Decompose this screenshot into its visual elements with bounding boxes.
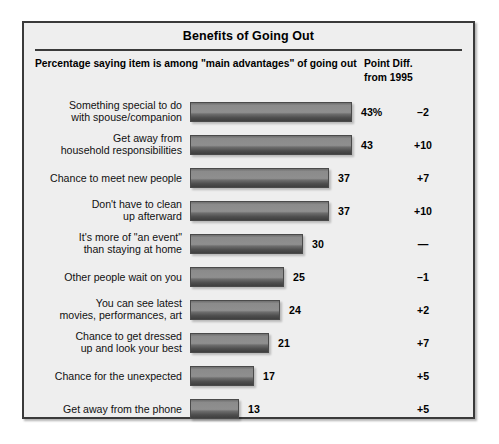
- bar-track: [190, 300, 280, 320]
- bar-value-label: 37: [338, 205, 350, 217]
- bar-row-label: It's more of "an event" than staying at …: [40, 231, 182, 256]
- bar-track: [190, 201, 329, 221]
- bar-track: [190, 267, 284, 287]
- bar: [190, 333, 269, 353]
- bar-value-label: 21: [278, 337, 290, 349]
- point-diff-value: +7: [384, 172, 462, 184]
- point-diff-value: –1: [384, 271, 462, 283]
- bar-row-label: Chance to meet new people: [40, 171, 182, 184]
- bar-row: Something special to do with spouse/comp…: [24, 95, 473, 128]
- bar: [190, 201, 329, 221]
- point-diff-value: –2: [384, 106, 462, 118]
- bar-row: Chance to get dressed up and look your b…: [24, 326, 473, 359]
- chart-title-bar: Benefits of Going Out: [24, 23, 473, 48]
- bar-row-label: Get away from household responsibilities: [40, 132, 182, 157]
- point-diff-value: +10: [384, 205, 462, 217]
- point-diff-value: +7: [384, 337, 462, 349]
- bar-value-label: 17: [263, 370, 275, 382]
- point-diff-value: +5: [384, 403, 462, 415]
- bar-track: [190, 399, 239, 419]
- bar-track: [190, 366, 254, 386]
- point-diff-value: +10: [384, 139, 462, 151]
- point-diff-column-header: Point Diff. from 1995: [364, 57, 460, 84]
- bar-row: You can see latest movies, performances,…: [24, 293, 473, 326]
- bar-value-label: 25: [293, 271, 305, 283]
- bar-row: Get away from the phone13+5: [24, 392, 473, 425]
- bar: [190, 102, 352, 122]
- bar-row-label: You can see latest movies, performances,…: [40, 297, 182, 322]
- bar-value-label: 37: [338, 172, 350, 184]
- bar-value-label: 30: [312, 238, 324, 250]
- point-diff-value: +5: [384, 370, 462, 382]
- page-title: Benefits of Going Out: [183, 29, 314, 43]
- bar-track: [190, 234, 303, 254]
- bar: [190, 234, 303, 254]
- bar: [190, 366, 254, 386]
- bar: [190, 168, 329, 188]
- bar: [190, 300, 280, 320]
- bar-row: Don't have to clean up afterward37+10: [24, 194, 473, 227]
- bar: [190, 399, 239, 419]
- title-divider: [35, 49, 462, 51]
- bar-rows: Something special to do with spouse/comp…: [24, 95, 473, 425]
- bar: [190, 135, 352, 155]
- bar-value-label: 43: [361, 139, 373, 151]
- subheader: Percentage saying item is among "main ad…: [35, 57, 462, 93]
- point-diff-header-line2: from 1995: [364, 71, 460, 85]
- bar-row-label: Something special to do with spouse/comp…: [40, 99, 182, 124]
- bar-row-label: Chance for the unexpected: [40, 369, 182, 382]
- bar-row: Other people wait on you25–1: [24, 260, 473, 293]
- bar-track: [190, 102, 352, 122]
- bar-row-label: Chance to get dressed up and look your b…: [40, 330, 182, 355]
- subtitle-text: Percentage saying item is among "main ad…: [35, 57, 365, 71]
- bar-row: Chance for the unexpected17+5: [24, 359, 473, 392]
- point-diff-header-line1: Point Diff.: [364, 58, 413, 69]
- point-diff-value: +2: [384, 304, 462, 316]
- bar-track: [190, 333, 269, 353]
- bar-value-label: 24: [289, 304, 301, 316]
- bar-row: Chance to meet new people37+7: [24, 161, 473, 194]
- bar-value-label: 13: [248, 403, 260, 415]
- bar-row-label: Get away from the phone: [40, 402, 182, 415]
- bar-row-label: Don't have to clean up afterward: [40, 198, 182, 223]
- bar-track: [190, 135, 352, 155]
- chart-panel: Benefits of Going Out Percentage saying …: [22, 21, 475, 419]
- bar-value-label: 43%: [361, 106, 382, 118]
- bar-row: It's more of "an event" than staying at …: [24, 227, 473, 260]
- bar: [190, 267, 284, 287]
- bar-row: Get away from household responsibilities…: [24, 128, 473, 161]
- point-diff-value: —: [384, 238, 462, 250]
- bar-track: [190, 168, 329, 188]
- bar-row-label: Other people wait on you: [40, 270, 182, 283]
